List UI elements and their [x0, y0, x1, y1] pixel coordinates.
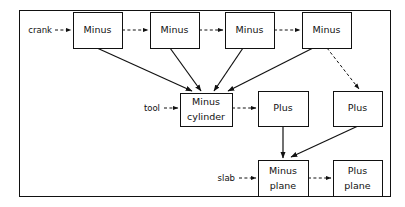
minus-cylinder-box-label-secondary: cylinder	[187, 111, 225, 122]
edge-plus-right-to-minus-plane	[291, 126, 358, 157]
minus-box-3-label-primary: Minus	[236, 24, 264, 35]
plus-box-center[interactable]: Plus	[259, 92, 309, 127]
minus-box-1[interactable]: Minus	[74, 13, 123, 49]
plus-box-right[interactable]: Plus	[334, 92, 383, 127]
edge-minus4-to-minus-cylinder	[228, 48, 313, 91]
plus-plane-box-label-primary: Plus	[348, 165, 367, 176]
edge-minus3-to-minus-cylinder	[214, 48, 243, 91]
minus-box-4[interactable]: Minus	[303, 13, 352, 49]
input-label-slab: slab	[218, 173, 235, 183]
plus-plane-box[interactable]: Plusplane	[334, 161, 383, 197]
plus-box-right-label-primary: Plus	[348, 102, 367, 113]
nodes-layer: MinusMinusMinusMinusMinuscylinderPlusPlu…	[74, 13, 383, 197]
minus-box-2[interactable]: Minus	[151, 13, 200, 49]
input-label-tool: tool	[144, 103, 160, 113]
edge-minus1-to-minus-cylinder	[97, 48, 192, 91]
minus-cylinder-box[interactable]: Minuscylinder	[181, 94, 233, 127]
plus-box-center-label-primary: Plus	[273, 102, 292, 113]
minus-cylinder-box-label-primary: Minus	[192, 96, 220, 107]
minus-box-4-label-primary: Minus	[313, 24, 341, 35]
edge-minus4-to-plus-right	[327, 48, 359, 89]
diagram-svg: MinusMinusMinusMinusMinuscylinderPlusPlu…	[0, 0, 405, 207]
minus-box-3[interactable]: Minus	[226, 13, 275, 49]
diagram-canvas: MinusMinusMinusMinusMinuscylinderPlusPlu…	[0, 0, 405, 207]
input-label-crank: crank	[28, 25, 52, 35]
minus-plane-box-label-primary: Minus	[269, 165, 297, 176]
minus-plane-box-label-secondary: plane	[270, 180, 297, 191]
plus-plane-box-label-secondary: plane	[344, 180, 371, 191]
edge-minus2-to-minus-cylinder	[170, 48, 201, 91]
minus-box-2-label-primary: Minus	[161, 24, 189, 35]
minus-plane-box[interactable]: Minusplane	[259, 161, 309, 197]
minus-box-1-label-primary: Minus	[84, 24, 112, 35]
